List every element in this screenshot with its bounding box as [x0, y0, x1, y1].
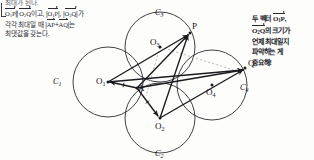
label-q-base: Q	[248, 58, 255, 68]
tick-a-o1	[123, 83, 124, 87]
label-o1-sub: 1	[103, 81, 106, 87]
label-p-base: P	[192, 21, 197, 31]
label-o4: O4	[206, 88, 216, 98]
label-c3: C3	[155, 9, 164, 18]
dot-o1	[107, 81, 110, 84]
dot-p	[189, 32, 192, 35]
label-c2-sub: 2	[161, 153, 164, 159]
label-p: P	[192, 22, 197, 31]
label-c1-sub: 1	[59, 81, 62, 87]
worksheet-page: 최대가 된다. O1P∥O2Q이고, |O1P|, |O2Q|가 각각 최대일 …	[0, 0, 314, 160]
label-o3: O3	[150, 38, 160, 48]
label-c3-sub: 3	[161, 12, 164, 18]
label-c4-sub: 4	[246, 87, 249, 93]
label-c1: C1	[53, 78, 62, 87]
label-o4-sub: 4	[213, 92, 216, 98]
label-c2: C2	[155, 150, 164, 159]
vector-circle-diagram: C1C2C3C4O1O2O3O4APQ	[0, 0, 314, 160]
label-o2-sub: 2	[162, 126, 165, 132]
vector-o1-p	[108, 35, 188, 82]
label-c4: C4	[240, 84, 249, 93]
diagram-svg	[0, 0, 314, 160]
vector-group	[108, 35, 243, 118]
label-o2: O2	[155, 122, 165, 132]
label-o1: O1	[96, 77, 106, 87]
label-q: Q	[248, 59, 255, 68]
dot-o2	[159, 117, 162, 120]
label-o3-sub: 3	[157, 42, 160, 48]
label-a-base: A	[138, 83, 145, 93]
dot-q	[244, 67, 247, 70]
label-a: A	[138, 84, 145, 93]
